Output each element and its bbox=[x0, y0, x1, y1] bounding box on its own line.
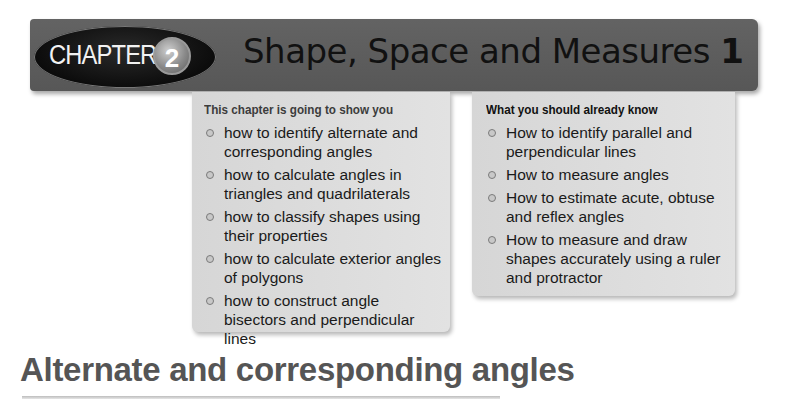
list-item: how to calculate exterior angles of poly… bbox=[204, 249, 444, 287]
chapter-title-text: Shape, Space and Measures bbox=[243, 31, 710, 71]
list-item-text: How to estimate acute, obtuse and reflex… bbox=[506, 189, 715, 225]
bullet-icon bbox=[206, 171, 214, 179]
bullet-icon bbox=[488, 236, 496, 244]
chapter-title: Shape, Space and Measures 1 bbox=[243, 31, 743, 71]
list-item: how to calculate angles in triangles and… bbox=[204, 165, 444, 203]
section-divider bbox=[22, 396, 500, 399]
list-item: how to classify shapes using their prope… bbox=[204, 207, 444, 245]
list-item-text: how to identify alternate and correspond… bbox=[224, 124, 418, 160]
objectives-list: how to identify alternate and correspond… bbox=[204, 123, 444, 352]
list-item-text: How to measure angles bbox=[506, 166, 669, 183]
section-title: Alternate and corresponding angles bbox=[20, 351, 575, 389]
list-item: How to estimate acute, obtuse and reflex… bbox=[486, 188, 726, 226]
list-item-text: how to calculate angles in triangles and… bbox=[224, 166, 410, 202]
chapter-title-number: 1 bbox=[720, 31, 743, 71]
list-item: How to identify parallel and perpendicul… bbox=[486, 123, 726, 161]
bullet-icon bbox=[206, 297, 214, 305]
prior-knowledge-list: How to identify parallel and perpendicul… bbox=[486, 123, 726, 291]
bullet-icon bbox=[206, 213, 214, 221]
list-item-text: how to construct angle bisectors and per… bbox=[224, 292, 414, 347]
list-item-text: How to measure and draw shapes accuratel… bbox=[506, 231, 721, 286]
list-item: How to measure angles bbox=[486, 165, 726, 184]
list-item: how to construct angle bisectors and per… bbox=[204, 291, 444, 348]
bullet-icon bbox=[206, 129, 214, 137]
list-item: How to measure and draw shapes accuratel… bbox=[486, 230, 726, 287]
prior-knowledge-box: What you should already know How to iden… bbox=[472, 92, 735, 296]
list-item: how to identify alternate and correspond… bbox=[204, 123, 444, 161]
bullet-icon bbox=[206, 255, 214, 263]
list-item-text: how to classify shapes using their prope… bbox=[224, 208, 420, 244]
prior-knowledge-heading: What you should already know bbox=[486, 102, 658, 117]
chapter-number-badge: 2 bbox=[153, 37, 191, 75]
chapter-label: CHAPTER bbox=[49, 40, 156, 71]
bullet-icon bbox=[488, 194, 496, 202]
objectives-heading: This chapter is going to show you bbox=[204, 102, 393, 117]
chapter-objectives-box: This chapter is going to show you how to… bbox=[192, 92, 450, 332]
list-item-text: How to identify parallel and perpendicul… bbox=[506, 124, 692, 160]
list-item-text: how to calculate exterior angles of poly… bbox=[224, 250, 441, 286]
bullet-icon bbox=[488, 129, 496, 137]
bullet-icon bbox=[488, 171, 496, 179]
